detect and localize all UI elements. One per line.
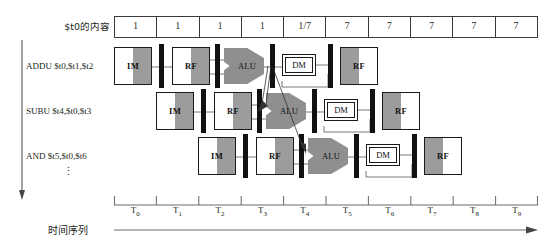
time-tick-subscript: 5: [348, 210, 352, 218]
time-tick-label: T3: [241, 205, 283, 219]
time-tick-subscript: 6: [391, 210, 395, 218]
stage-dm-2-label: DM: [376, 150, 390, 160]
stage-wb-2-label: RF: [425, 138, 461, 174]
time-tick-label: T0: [114, 205, 156, 219]
register-value-cell: 1/7: [284, 17, 326, 37]
time-tick-subscript: 2: [221, 210, 225, 218]
pipeline-register-1-a: [201, 89, 206, 133]
ellipsis-vertical: ⋮: [63, 166, 74, 177]
stage-wb-1: RF: [382, 92, 420, 130]
time-tick-label: T5: [326, 205, 368, 219]
stage-im-2-label: IM: [199, 138, 235, 174]
stage-rf-0: RF: [172, 47, 210, 85]
stage-wb-0: RF: [340, 47, 378, 85]
time-tick-label: T7: [411, 205, 453, 219]
register-value-cell: 1: [200, 17, 242, 37]
time-tick-label: T4: [284, 205, 326, 219]
time-tick-label: T1: [156, 205, 198, 219]
register-value-cell: 1: [157, 17, 199, 37]
register-value-cell: 1: [242, 17, 284, 37]
instruction-label-1: SUBU $t4,$t0,$t3: [26, 106, 130, 116]
stage-alu-2-label: ALU: [308, 138, 348, 174]
register-content-label: $t0的内容: [40, 19, 110, 33]
register-value-cell: 7: [496, 17, 537, 37]
time-tick-subscript: 9: [518, 210, 522, 218]
stage-rf-0-label: RF: [173, 48, 209, 84]
pipeline-register-2-d: [412, 134, 417, 178]
instruction-label-2: AND $t5,$t0,$t6: [26, 151, 130, 161]
stage-dm-1: DM: [324, 99, 358, 121]
pipeline-register-0-a: [159, 44, 164, 88]
stage-dm-0: DM: [282, 54, 316, 76]
time-tick-labels: T0T1T2T3T4T5T6T7T8T9: [114, 205, 538, 219]
time-direction-arrow: [114, 226, 538, 238]
stage-im-0-label: IM: [115, 48, 151, 84]
pipeline-register-1-b: [257, 89, 262, 133]
register-value-cell: 7: [411, 17, 453, 37]
register-value-cell: 1: [115, 17, 157, 37]
stage-alu-2: ALU: [308, 138, 348, 174]
time-tick-label: T9: [496, 205, 538, 219]
stage-alu-0: ALU: [224, 48, 264, 84]
time-tick-label: T8: [453, 205, 495, 219]
pipeline-timing-figure: $t0的内容 11111/777777 ADDU $t0,$t1,$t2 SUB…: [0, 0, 552, 251]
register-value-cell: 7: [369, 17, 411, 37]
stage-im-2: IM: [198, 137, 236, 175]
stage-im-1: IM: [156, 92, 194, 130]
stage-rf-1: RF: [214, 92, 252, 130]
stage-dm-1-label: DM: [334, 105, 348, 115]
stage-alu-0-label: ALU: [224, 48, 264, 84]
pipeline-register-1-d: [370, 89, 375, 133]
stage-im-1-label: IM: [157, 93, 193, 129]
time-tick-subscript: 4: [306, 210, 310, 218]
stage-wb-0-label: RF: [341, 48, 377, 84]
register-value-cell: 7: [453, 17, 495, 37]
pipeline-register-0-d: [328, 44, 333, 88]
time-sequence-caption: 时间序列: [48, 222, 88, 237]
stage-wb-2: RF: [424, 137, 462, 175]
register-value-cell: 7: [326, 17, 368, 37]
time-tick-subscript: 7: [433, 210, 437, 218]
stage-rf-2: RF: [256, 137, 294, 175]
stage-rf-1-label: RF: [215, 93, 251, 129]
pipeline-register-2-c: [354, 134, 359, 178]
time-tick-label: T6: [368, 205, 410, 219]
pipeline-register-0-c: [270, 44, 275, 88]
time-tick-subscript: 0: [136, 210, 140, 218]
time-tick-subscript: 1: [179, 210, 183, 218]
time-tick-subscript: 8: [475, 210, 479, 218]
pipeline-register-2-b: [299, 134, 304, 178]
pipeline-register-0-b: [215, 44, 220, 88]
stage-alu-1-label: ALU: [266, 93, 306, 129]
stage-dm-0-label: DM: [292, 60, 306, 70]
stage-dm-2: DM: [366, 144, 400, 166]
stage-im-0: IM: [114, 47, 152, 85]
register-value-row: 11111/777777: [114, 16, 538, 38]
stage-rf-2-label: RF: [257, 138, 293, 174]
time-tick-subscript: 3: [263, 210, 267, 218]
pipeline-register-2-a: [243, 134, 248, 178]
pipeline-register-1-c: [312, 89, 317, 133]
stage-wb-1-label: RF: [383, 93, 419, 129]
time-tick-label: T2: [199, 205, 241, 219]
stage-alu-1: ALU: [266, 93, 306, 129]
